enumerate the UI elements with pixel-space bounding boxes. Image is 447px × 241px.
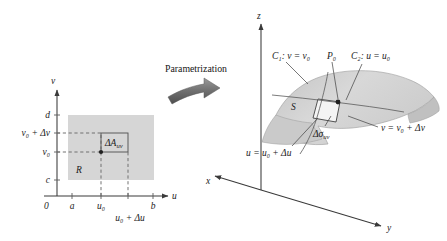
label-point-P0: P₀ [326,51,336,61]
parametrization-caption: Parametrization [165,63,227,74]
ytick-label-v0: v₀ [42,147,50,157]
ytick-label-c: c [46,175,51,185]
u-axis-label: u [172,191,177,201]
xtick-label-b: b [151,201,156,211]
label-curve-C1: C₁: v = v₀ [272,51,310,61]
figure-container: v u 0 a u₀ u₀ + Δu b c v₀ v₀ + Δv d R [0,0,447,241]
x-axis-label: x [205,176,211,186]
y-axis-label: y [386,223,392,233]
left-panel-group: v u 0 a u₀ u₀ + Δu b c v₀ v₀ + Δv d R [22,76,177,223]
leader-C1 [286,62,308,84]
ytick-label-v0-dv: v₀ + Δv [22,128,51,138]
xtick-label-u0-du: u₀ + Δu [115,213,145,223]
label-curve-C2: C₂: u = u₀ [351,51,390,61]
parametrization-group: Parametrization [165,63,227,104]
origin-label: 0 [44,201,49,211]
label-curve-u-upper: u = u₀ + Δu [246,148,292,158]
v-axis-label: v [51,76,56,86]
ytick-label-d: d [45,110,50,120]
label-delta-sigma: Δσuv [312,129,330,140]
xtick-label-u0: u₀ [97,201,105,211]
sample-point-dot [99,150,103,154]
z-axis-label: z [256,11,261,21]
y-axis [261,190,381,226]
curved-right-arrow-icon [168,78,220,104]
xtick-label-a: a [70,201,75,211]
x-axis [215,176,261,190]
parametrization-diagram: v u 0 a u₀ u₀ + Δu b c v₀ v₀ + Δv d R [0,0,447,241]
label-curve-v-upper: v = v₀ + Δv [381,123,426,133]
label-surface-S: S [291,102,296,112]
point-P0-dot [336,100,341,105]
region-label-R: R [75,165,82,175]
right-panel-group: z x y C₁: v = v₀ P₀ C₂: u = u₀ S Δσuv v … [205,11,439,233]
